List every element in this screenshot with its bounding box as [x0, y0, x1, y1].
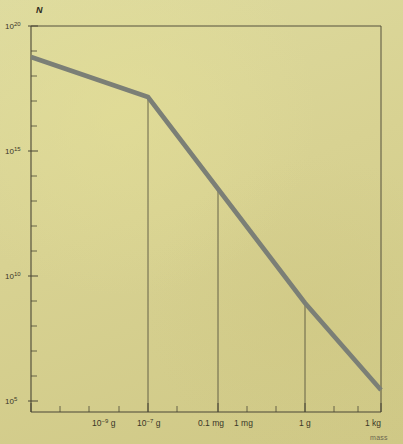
y-tick-2-exp: 10 — [14, 271, 21, 277]
y-axis-minor-ticks — [31, 51, 37, 376]
x-axis-tick-labels: 10−9 g 10−7 g 0.1 mg 1 mg 1 g 1 kg — [92, 418, 381, 429]
x-axis-major-ticks — [31, 403, 381, 412]
drop-lines — [148, 97, 305, 412]
x-tick-label-4: 1 g — [299, 418, 311, 428]
y-tick-3-exp: 5 — [14, 396, 18, 402]
svg-text:1010: 1010 — [5, 271, 21, 282]
x-tick-0-unit: g — [108, 418, 115, 428]
y-axis-tick-labels: 1020 1015 1010 105 — [5, 21, 21, 407]
x-tick-label-0: 10−9 g — [92, 418, 116, 429]
svg-text:105: 105 — [5, 396, 18, 407]
x-tick-label-5: 1 kg — [365, 418, 381, 428]
x-tick-1-unit: g — [153, 418, 160, 428]
x-tick-0-main: 10 — [92, 418, 102, 428]
x-tick-label-1: 10−7 g — [137, 418, 161, 429]
x-tick-label-2: 0.1 mg — [198, 418, 224, 428]
data-curve — [31, 57, 381, 390]
x-tick-label-3: 1 mg — [234, 418, 253, 428]
svg-text:1015: 1015 — [5, 146, 21, 157]
x-axis-minor-ticks — [60, 406, 358, 412]
y-tick-1-exp: 15 — [14, 146, 21, 152]
x-axis-name: mass — [370, 434, 388, 441]
chart-svg: 1020 1015 1010 105 N — [0, 0, 403, 444]
y-axis-name: N — [36, 5, 43, 15]
y-tick-0-exp: 20 — [14, 21, 21, 27]
plot-frame — [31, 26, 381, 412]
y-axis-major-ticks — [28, 26, 38, 401]
x-tick-1-main: 10 — [137, 418, 147, 428]
chart-figure: 1020 1015 1010 105 N — [0, 0, 403, 444]
svg-text:1020: 1020 — [5, 21, 21, 32]
